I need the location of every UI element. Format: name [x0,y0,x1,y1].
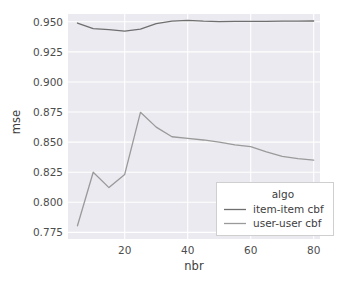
chart-figure: 0.7750.8000.8250.8500.8750.9000.9250.950… [0,0,347,283]
chart-legend: algo item-item cbfuser-user cbf [216,182,334,236]
x-axis-tick-labels: 20406080 [0,245,347,259]
x-axis-tick-label: 20 [105,245,145,255]
legend-title: algo [224,188,324,200]
legend-entries: item-item cbfuser-user cbf [224,204,324,229]
x-axis-tick-label: 80 [294,245,334,255]
legend-entry-label: item-item cbf [253,204,324,215]
x-axis-tick-label: 40 [168,245,208,255]
legend-entry: user-user cbf [224,218,324,229]
y-axis-title-text: mse [9,97,23,147]
x-axis-title: nbr [68,259,320,273]
legend-entry: item-item cbf [224,204,324,215]
x-axis-tick-label: 60 [231,245,271,255]
series-line [77,20,313,31]
y-axis-title: mse [8,0,24,283]
legend-line-swatch [224,219,246,228]
legend-line-swatch [224,205,246,214]
legend-entry-label: user-user cbf [253,218,321,229]
